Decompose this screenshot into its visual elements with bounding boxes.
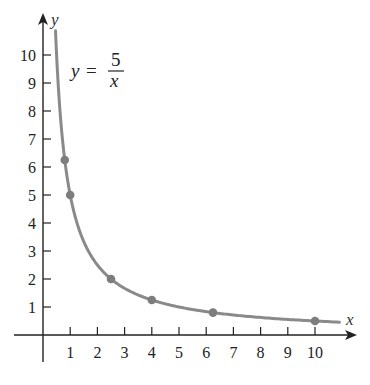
y-tick-label: 2 [28, 271, 36, 288]
x-tick-label: 2 [93, 344, 101, 361]
hyperbola-chart: 1234567891012345678910xy y = 5 x [0, 0, 370, 385]
x-tick-label: 8 [257, 344, 265, 361]
y-tick-label: 1 [28, 299, 36, 316]
equation-lhs: y [69, 60, 80, 81]
data-point [148, 296, 157, 305]
y-tick-label: 10 [20, 47, 36, 64]
equation-numerator: 5 [111, 49, 121, 70]
x-tick-label: 3 [121, 344, 129, 361]
x-tick-label: 1 [66, 344, 74, 361]
y-tick-label: 3 [28, 243, 36, 260]
equation-denominator: x [109, 70, 119, 91]
x-tick-label: 9 [284, 344, 292, 361]
data-point [66, 191, 75, 200]
y-tick-label: 6 [28, 159, 36, 176]
data-point [209, 308, 218, 317]
x-tick-label: 10 [307, 344, 323, 361]
x-tick-label: 6 [202, 344, 210, 361]
x-tick-label: 7 [229, 344, 237, 361]
curve-y-equals-5-over-x [56, 31, 340, 323]
equation-label: y = 5 x [69, 49, 124, 91]
y-tick-label: 9 [28, 75, 36, 92]
data-point [107, 275, 116, 284]
curve-path [56, 31, 340, 323]
y-tick-label: 5 [28, 187, 36, 204]
x-tick-label: 5 [175, 344, 183, 361]
data-point [60, 156, 69, 165]
data-point [311, 317, 320, 326]
x-axis-label: x [345, 310, 354, 329]
y-axis-label: y [49, 10, 59, 29]
y-tick-label: 8 [28, 103, 36, 120]
y-tick-label: 7 [28, 131, 36, 148]
equation-equals: = [86, 60, 97, 81]
x-tick-label: 4 [148, 344, 156, 361]
y-tick-label: 4 [28, 215, 36, 232]
data-points [60, 156, 319, 326]
